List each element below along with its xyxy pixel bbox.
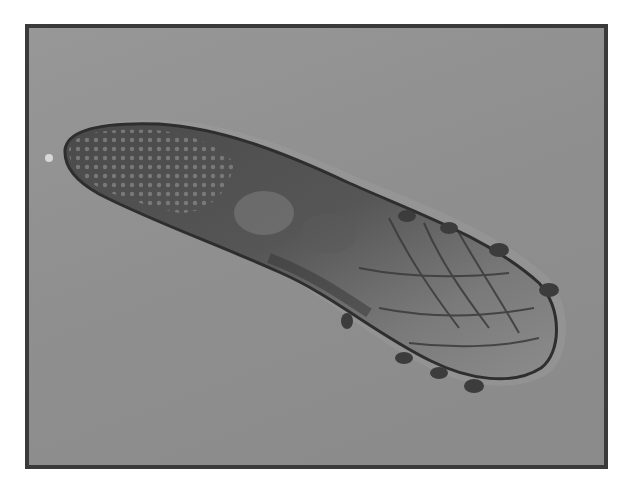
mite-illustration <box>29 28 604 465</box>
photo-frame <box>25 24 608 469</box>
bubble <box>45 154 53 162</box>
